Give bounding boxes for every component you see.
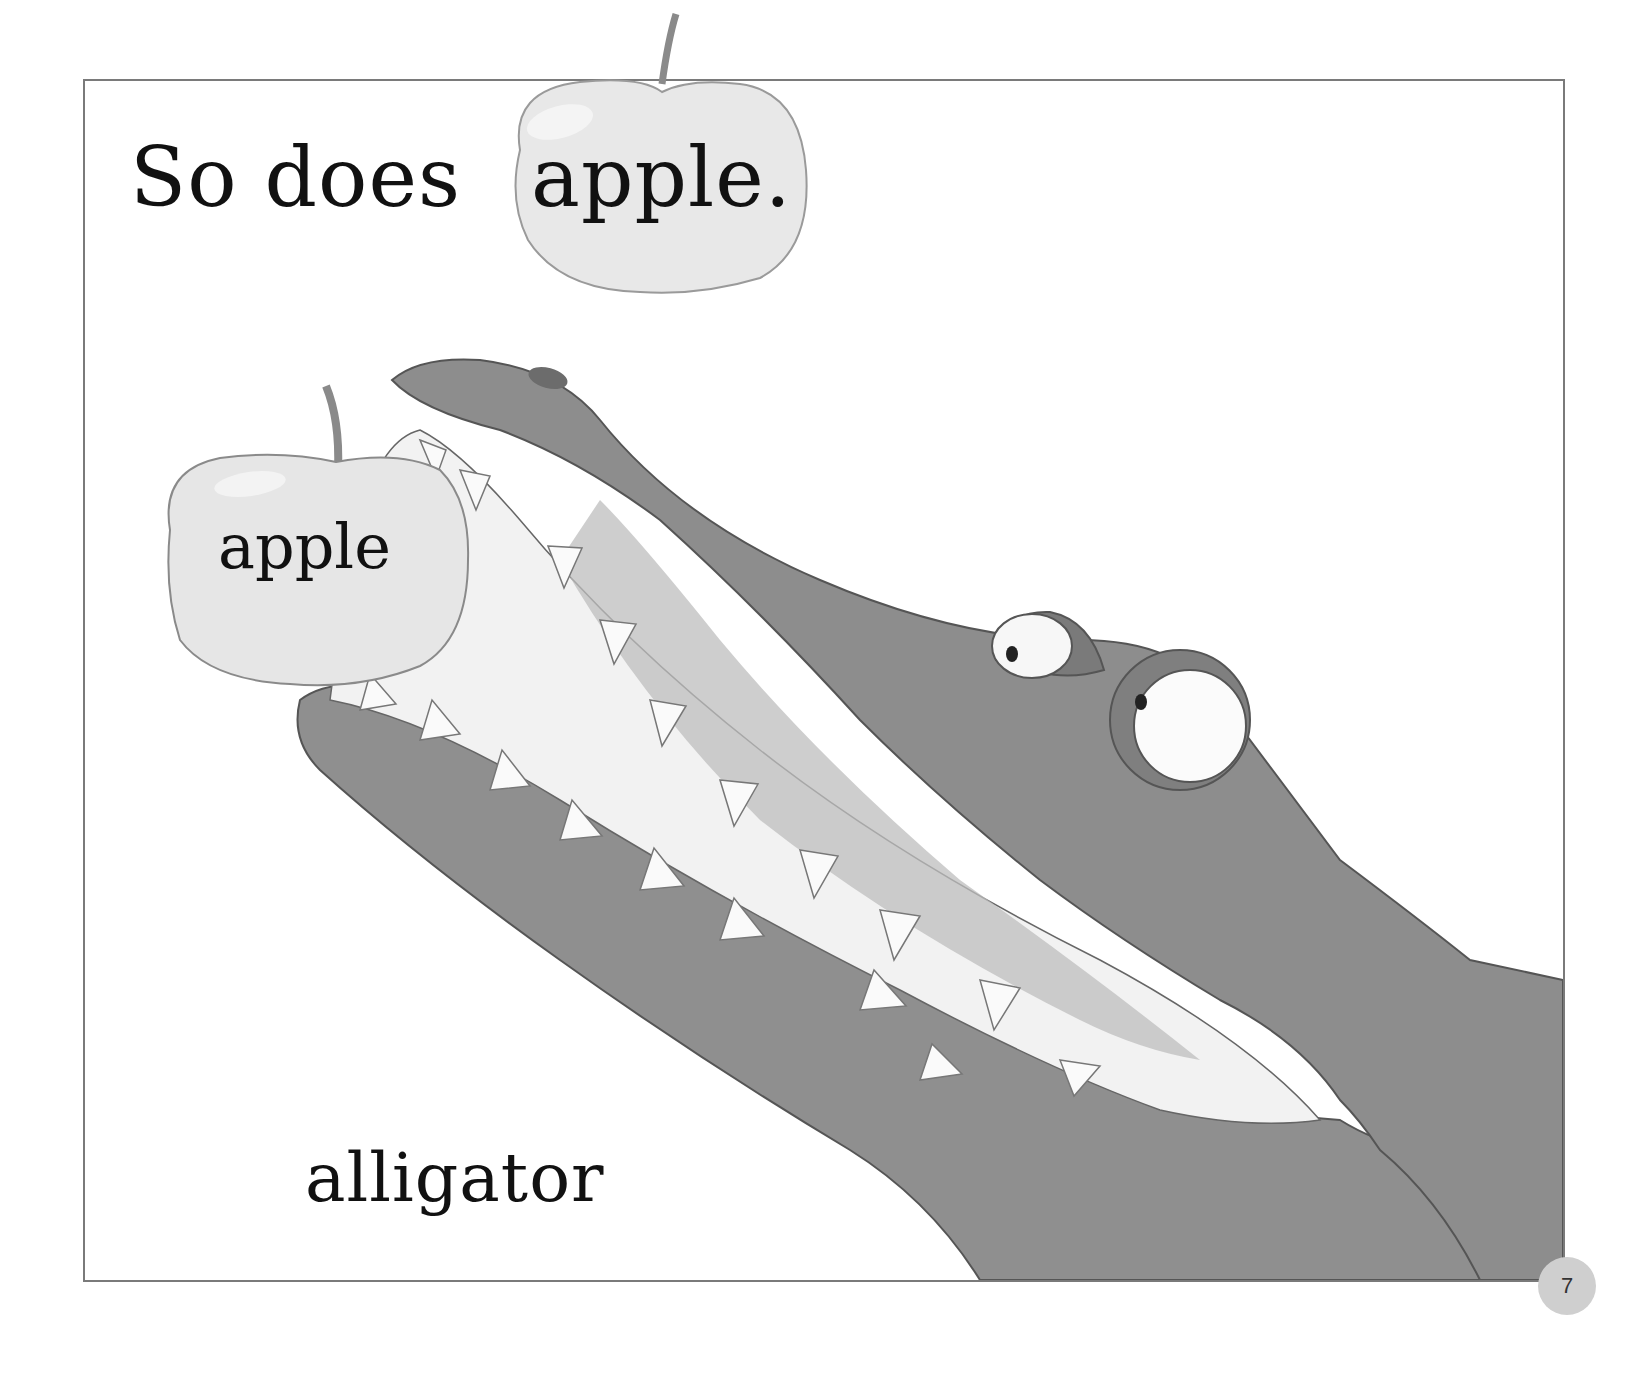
apple-label: apple (218, 510, 391, 583)
sentence-highlight-word: apple. (531, 130, 792, 225)
sentence-prefix: So does (130, 130, 461, 225)
alligator-label: alligator (305, 1138, 605, 1217)
page-number-badge: 7 (1538, 1257, 1596, 1315)
page-frame (83, 79, 1565, 1282)
page-number: 7 (1561, 1273, 1573, 1299)
page-sentence: So doesapple. (130, 130, 792, 225)
